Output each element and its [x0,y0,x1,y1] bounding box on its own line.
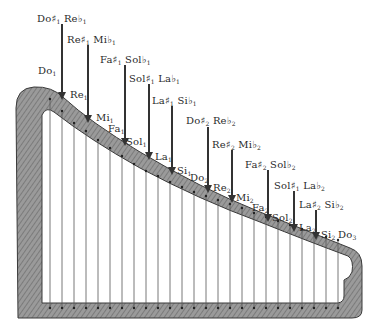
natural-note-label: Fa2 [252,203,269,214]
natural-note-label: Do3 [338,230,356,241]
string-peg [241,207,243,209]
string-peg [325,307,327,309]
string-peg [277,307,279,309]
accidental-label: Do♯1 Re♭1 [37,14,87,25]
string-peg [157,175,159,177]
natural-note-label: La2 [299,223,316,234]
accidental-label: Fa♯2 Sol♭2 [245,160,296,171]
string-peg [241,307,243,309]
string-peg [205,307,207,309]
string-peg [169,307,171,309]
string-peg [157,307,159,309]
string-peg [337,307,339,309]
natural-note-label: Fa1 [108,124,125,135]
string-peg [109,307,111,309]
natural-note-label: Sol2 [272,213,293,224]
string-peg [97,139,99,141]
string-peg [265,307,267,309]
string-peg [121,307,123,309]
string-peg [109,147,111,149]
accidental-label: Sol♯1 La♭2 [274,181,325,192]
accidental-label: Re♯2 Mi♭2 [212,140,261,151]
string-peg [73,122,75,124]
natural-note-label: Do2 [190,173,208,184]
string-peg [145,307,147,309]
accidental-label: Fa♯1 Sol♭1 [100,55,151,66]
string-peg [85,130,87,132]
accidental-label: La♯1 Si♭1 [152,96,197,107]
string-peg [61,307,63,309]
string-peg [61,110,63,112]
accidental-label: Sol♯1 La♭1 [129,74,180,85]
string-peg [145,170,147,172]
accidental-label: La♯2 Si♭2 [299,200,344,211]
string-peg [49,98,51,100]
string-peg [301,307,303,309]
natural-note-label: Do1 [38,66,56,77]
string-peg [217,307,219,309]
string-peg [193,191,195,193]
string-peg [133,163,135,165]
string-peg [169,181,171,183]
string-peg [85,307,87,309]
string-peg [97,307,99,309]
string-peg [181,186,183,188]
natural-note-label: Sol1 [126,137,147,148]
accidental-label: Re♯1 Mi♭1 [67,35,116,46]
natural-note-label: La1 [155,152,172,163]
string-peg [217,199,219,201]
natural-note-label: Si2 [321,230,335,241]
string-peg [205,195,207,197]
string-peg [289,307,291,309]
string-peg [229,203,231,205]
string-peg [73,307,75,309]
accidental-label: Do♯2 Re♭2 [186,116,236,127]
string-peg [313,307,315,309]
string-peg [49,307,51,309]
string-peg [121,155,123,157]
string-peg [193,307,195,309]
string-peg [253,307,255,309]
string-peg [181,307,183,309]
string-peg [133,307,135,309]
natural-note-label: Re2 [213,183,231,194]
natural-note-label: Re1 [70,90,88,101]
string-peg [229,307,231,309]
